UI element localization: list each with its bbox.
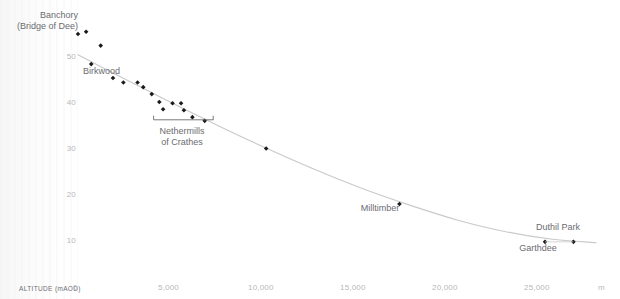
altitude-profile-chart: 50 40 30 20 10 ALTITUDE (mAOD) 0 5,000 1… <box>0 0 620 299</box>
plot-canvas <box>0 0 620 299</box>
data-point <box>170 101 175 106</box>
data-point <box>190 115 195 120</box>
data-point <box>157 100 162 105</box>
label-milltimber: Milltimber <box>330 203 430 214</box>
y-tick-30: 30 <box>54 144 76 153</box>
origin-tick-0: 0 <box>73 283 78 292</box>
trend-line-group <box>78 55 596 243</box>
y-tick-10: 10 <box>54 236 76 245</box>
y-tick-50: 50 <box>54 52 76 61</box>
y-tick-40: 40 <box>54 98 76 107</box>
data-point <box>121 80 126 85</box>
label-nethermills: Nethermills of Crathes <box>130 126 234 147</box>
x-tick-10000: 10,000 <box>248 283 274 292</box>
y-axis-caption: ALTITUDE (mAOD) <box>19 285 81 292</box>
x-tick-20000: 20,000 <box>432 283 458 292</box>
data-point <box>161 107 166 112</box>
trend-line <box>78 55 596 243</box>
data-point <box>76 32 81 37</box>
x-axis-unit: m <box>598 283 605 292</box>
data-point <box>98 43 103 48</box>
label-garthdee: Garthdee <box>493 243 583 254</box>
label-duthil-park: Duthil Park <box>513 222 603 233</box>
data-point <box>179 101 184 106</box>
label-nethermills-line1: Nethermills <box>159 126 204 136</box>
label-banchory-line2: (Bridge of Dee) <box>17 21 78 31</box>
x-tick-5000: 5,000 <box>158 283 179 292</box>
x-tick-25000: 25,000 <box>524 283 550 292</box>
y-tick-20: 20 <box>54 190 76 199</box>
label-birkwood: Birkwood <box>83 66 120 77</box>
label-banchory: Banchory (Bridge of Dee) <box>0 10 78 31</box>
label-banchory-line1: Banchory <box>40 10 78 20</box>
data-point <box>84 29 89 34</box>
x-tick-15000: 15,000 <box>340 283 366 292</box>
label-nethermills-line2: of Crathes <box>161 137 203 147</box>
